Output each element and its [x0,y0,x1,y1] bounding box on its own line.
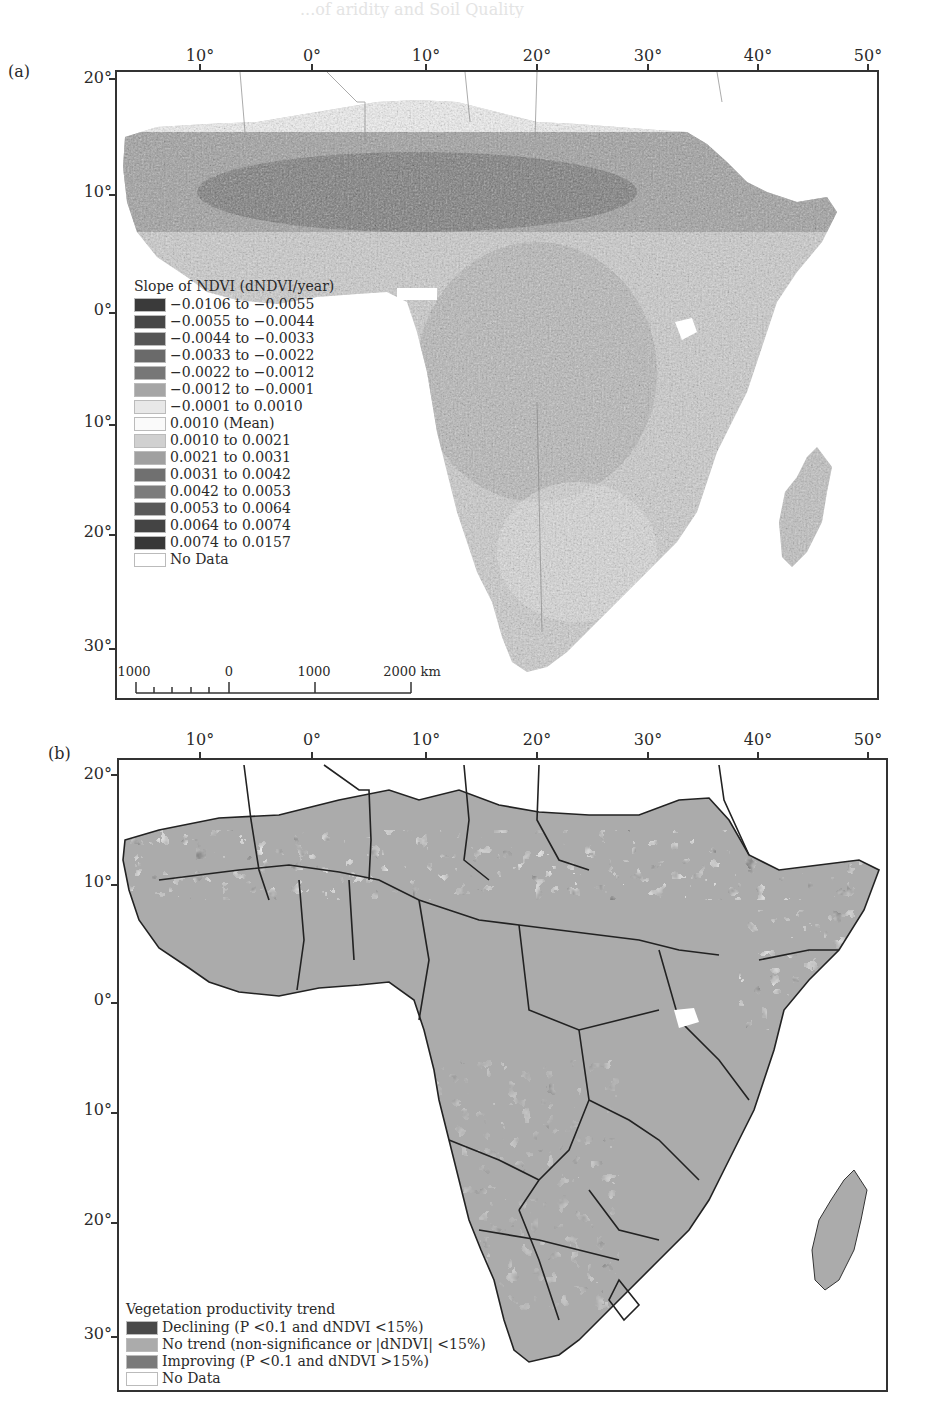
tick [111,1002,119,1004]
tick [867,64,869,72]
legend-item: No trend (non-significance or |dNDVI| <1… [126,1336,486,1353]
legend-item: −0.0044 to −0.0033 [134,330,334,347]
legend-label: −0.0106 to −0.0055 [170,296,314,313]
panel-label-b: (b) [48,744,71,763]
legend-item: 0.0074 to 0.0157 [134,534,334,551]
lon-label: 30° [634,730,662,749]
tick [647,752,649,760]
legend-label: 0.0010 to 0.0021 [170,432,291,449]
tick [311,64,313,72]
swatch [134,417,166,431]
swatch [134,298,166,312]
legend-label: Declining (P <0.1 and dNDVI <15%) [162,1319,423,1336]
tick [111,774,119,776]
legend-label: 0.0042 to 0.0053 [170,483,291,500]
scale-label: 0 [225,664,233,679]
tick [199,752,201,760]
legend-item: No Data [134,551,334,568]
lon-label: 10° [412,46,440,65]
legend-label: −0.0033 to −0.0022 [170,347,314,364]
bleed-through-header: ...of aridity and Soil Quality [300,0,932,18]
swatch [134,485,166,499]
swatch [134,400,166,414]
scale-bar-graphic [134,680,414,696]
lon-label: 20° [523,730,551,749]
legend-label: No Data [170,551,229,568]
legend-title: Slope of NDVI (dNDVI/year) [134,278,334,295]
swatch [134,366,166,380]
tick [425,64,427,72]
map-frame-b [117,758,888,1392]
legend-item: No Data [126,1370,486,1387]
lat-label: 20° [68,764,112,783]
tick [199,64,201,72]
swatch [126,1321,158,1335]
legend-item: 0.0031 to 0.0042 [134,466,334,483]
lat-label: 10° [68,872,112,891]
legend-label: −0.0022 to −0.0012 [170,364,314,381]
tick [109,648,117,650]
lon-label: 10° [412,730,440,749]
legend-label: 0.0031 to 0.0042 [170,466,291,483]
swatch [134,315,166,329]
lon-label: 10° [186,46,214,65]
tick [867,752,869,760]
legend-item: 0.0010 to 0.0021 [134,432,334,449]
tick [311,752,313,760]
swatch [134,553,166,567]
legend-item: 0.0064 to 0.0074 [134,517,334,534]
lon-label: 10° [186,730,214,749]
lon-label: 50° [854,46,882,65]
legend-title: Vegetation productivity trend [126,1301,486,1318]
tick [109,78,117,80]
lon-label: 0° [303,46,321,65]
tick [109,312,117,314]
tick [425,752,427,760]
legend-label: −0.0044 to −0.0033 [170,330,314,347]
scale-label: 1000 [297,664,330,679]
lon-label: 40° [744,46,772,65]
legend-ndvi-slope: Slope of NDVI (dNDVI/year) −0.0106 to −0… [134,278,334,568]
tick [536,64,538,72]
legend-item: 0.0042 to 0.0053 [134,483,334,500]
legend-item: −0.0012 to −0.0001 [134,381,334,398]
lat-label: 10° [68,412,112,431]
scale-label: 2000 km [383,664,440,679]
legend-item: 0.0010 (Mean) [134,415,334,432]
legend-label: −0.0001 to 0.0010 [170,398,303,415]
swatch [126,1355,158,1369]
tick [111,1222,119,1224]
tick [647,64,649,72]
legend-label: 0.0010 (Mean) [170,415,274,432]
legend-item: Improving (P <0.1 and dNDVI >15%) [126,1353,486,1370]
swatch [134,434,166,448]
tick [757,64,759,72]
legend-item: −0.0033 to −0.0022 [134,347,334,364]
lat-label: 10° [68,182,112,201]
legend-label: No trend (non-significance or |dNDVI| <1… [162,1336,486,1353]
legend-label: 0.0053 to 0.0064 [170,500,291,517]
swatch [134,451,166,465]
legend-item: −0.0106 to −0.0055 [134,296,334,313]
tick [111,1112,119,1114]
swatch [134,502,166,516]
swatch [134,519,166,533]
legend-item: −0.0055 to −0.0044 [134,313,334,330]
lat-label: 20° [68,68,112,87]
tick [111,1336,119,1338]
tick [109,194,117,196]
lon-label: 20° [523,46,551,65]
legend-label: 0.0074 to 0.0157 [170,534,291,551]
swatch [134,383,166,397]
legend-label: No Data [162,1370,221,1387]
tick [111,884,119,886]
scale-label: 1000 [117,664,150,679]
lat-label: 20° [68,522,112,541]
lat-label: 30° [68,636,112,655]
lon-label: 0° [303,730,321,749]
lon-label: 40° [744,730,772,749]
lon-label: 30° [634,46,662,65]
swatch [126,1338,158,1352]
legend-label: 0.0064 to 0.0074 [170,517,291,534]
legend-item: Declining (P <0.1 and dNDVI <15%) [126,1319,486,1336]
